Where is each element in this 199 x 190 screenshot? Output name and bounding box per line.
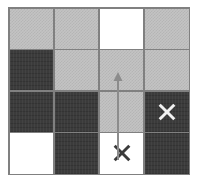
grid-cell-r2c2[interactable] [55,50,99,90]
grid-cell-r1c3[interactable] [100,9,144,49]
grid-cell-r3c1[interactable] [10,92,54,132]
x-marker-light-icon [156,101,178,123]
grid-cell-r1c4[interactable] [145,9,189,49]
grid-cell-r1c1[interactable] [10,9,54,49]
grid-cell-r2c3[interactable] [100,50,144,90]
grid-cell-r3c3[interactable] [100,92,144,132]
grid-cell-r4c2[interactable] [55,133,99,173]
grid-cell-r2c4[interactable] [145,50,189,90]
grid-cell-r4c4[interactable] [145,133,189,173]
grid-figure [0,0,199,190]
grid-cell-r1c2[interactable] [55,9,99,49]
x-marker-dark-icon [111,142,133,164]
grid-cell-r3c4[interactable] [145,92,189,132]
grid-cell-r4c1[interactable] [10,133,54,173]
grid-container [8,7,190,175]
grid-cell-r3c2[interactable] [55,92,99,132]
grid-cell-r4c3[interactable] [100,133,144,173]
grid-cell-r2c1[interactable] [10,50,54,90]
